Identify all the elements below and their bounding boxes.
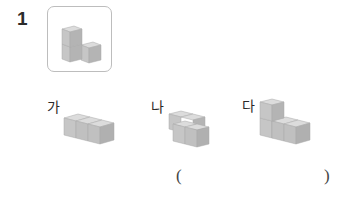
cube bbox=[260, 99, 284, 121]
cube bbox=[284, 120, 310, 144]
option-figure-na bbox=[165, 108, 221, 156]
close-paren: ) bbox=[324, 166, 330, 186]
option-label-na: 나 bbox=[151, 96, 164, 116]
reference-figure-box bbox=[47, 6, 112, 72]
option-figure-ga bbox=[60, 110, 126, 146]
option-label-ga: 가 bbox=[47, 96, 60, 116]
cube bbox=[88, 120, 114, 144]
reference-cube-figure bbox=[48, 7, 113, 73]
question-number: 1 bbox=[17, 8, 28, 30]
option-figure-da bbox=[256, 98, 322, 156]
cube bbox=[62, 26, 82, 47]
option-label-da: 다 bbox=[242, 95, 255, 115]
cube bbox=[185, 124, 209, 147]
answer-blank[interactable]: ( ) bbox=[172, 166, 332, 190]
open-paren: ( bbox=[176, 166, 182, 186]
cube bbox=[81, 42, 101, 63]
